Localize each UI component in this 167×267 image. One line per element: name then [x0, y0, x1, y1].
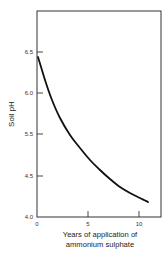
x-axis-ticks: 0510 — [35, 211, 143, 227]
x-tick-label: 0 — [35, 221, 39, 227]
x-tick-label: 10 — [136, 221, 143, 227]
plot-frame — [37, 11, 161, 217]
soil-ph-curve — [38, 57, 148, 202]
plot-border — [37, 11, 161, 217]
y-tick-label: 5.5 — [25, 131, 34, 137]
y-tick-label: 4.5 — [25, 173, 34, 179]
x-axis-label-line-1: Years of application of — [40, 230, 160, 240]
y-axis-ticks: 6.56.05.54.54.0 — [25, 49, 43, 220]
chart: 6.56.05.54.54.0 0510 Soil pH — [0, 0, 167, 267]
x-axis-label: Years of application of ammonium sulphat… — [40, 230, 160, 250]
y-axis-label: Soil pH — [7, 101, 16, 127]
x-axis-label-line-2: ammonium sulphate — [40, 240, 160, 250]
y-tick-label: 4.0 — [25, 214, 34, 220]
x-tick-label: 5 — [86, 221, 90, 227]
y-tick-label: 6.5 — [25, 49, 34, 55]
y-tick-label: 6.0 — [25, 90, 34, 96]
